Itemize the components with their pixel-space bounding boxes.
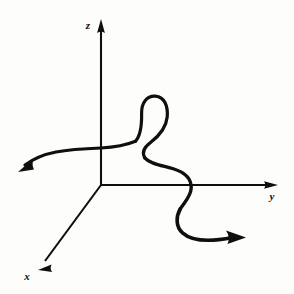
z-axis-arrowhead [97, 19, 105, 33]
figure-container: z y x [0, 0, 294, 294]
x-axis-line [45, 185, 101, 261]
z-axis-label: z [85, 19, 91, 31]
y-axis-arrowhead [264, 181, 278, 189]
curve-end-arrowhead [226, 231, 246, 245]
x-axis-label: x [23, 270, 30, 282]
x-axis [38, 185, 101, 272]
x-axis-arrowhead [38, 265, 52, 273]
curve-segment-left-tail [25, 141, 136, 165]
space-curve-figure: z y x [0, 0, 294, 294]
z-axis [97, 19, 105, 185]
curve-segment-loop [136, 96, 168, 158]
space-curve-group [18, 96, 246, 244]
y-axis-label: y [268, 190, 275, 202]
curve-start-arrowhead [18, 159, 34, 173]
curve-segment-bottom-hook [177, 209, 231, 240]
curve-segment-s-bend [145, 158, 191, 209]
